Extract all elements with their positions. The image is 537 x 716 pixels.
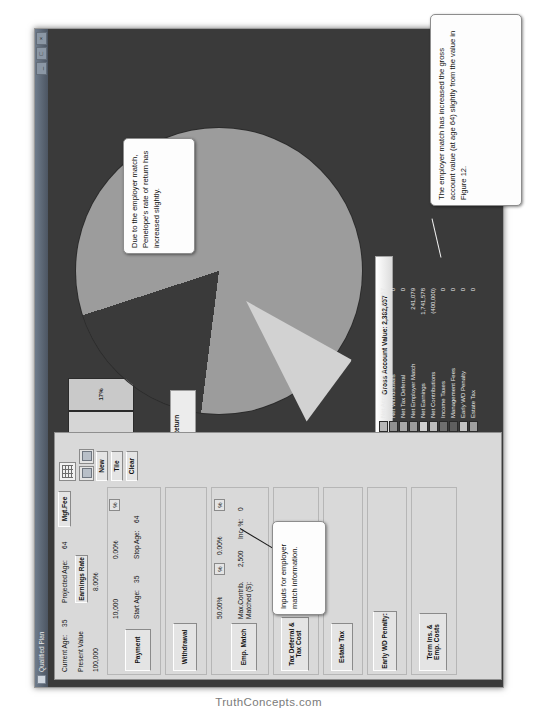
legend-row-value: 2,382,657 [380, 288, 386, 340]
bar-segment-label: 17% [98, 388, 104, 400]
legend-row-label: Net Tax Deferral [400, 340, 406, 418]
gross-account-value-callout-text: The employer match has increased the gro… [437, 20, 469, 200]
legend-swatch-icon [389, 421, 398, 432]
legend-row-label: Net Withdrawals [390, 340, 396, 418]
payment-rate[interactable]: 0.00% [112, 540, 119, 559]
legend-row-value: (400,000) [430, 288, 436, 340]
legend-row-label: Income Taxes [440, 340, 446, 418]
current-age-value[interactable]: 35 [61, 620, 68, 627]
window-title: Qualified Plan [38, 632, 45, 672]
inc-percent-value[interactable]: 0 [237, 507, 244, 511]
legend-row[interactable]: Net Tax Deferral 0 [398, 246, 408, 432]
stop-age-value[interactable]: 64 [133, 516, 140, 523]
legend-swatch-icon [459, 421, 468, 432]
copy-icon[interactable] [79, 449, 94, 464]
footer-watermark-text: TruthConcepts.com [215, 696, 322, 708]
stop-age-label: Stop Age: [133, 530, 140, 559]
emp-match-inc-percent-toggle[interactable]: % [214, 499, 225, 511]
footer-watermark: TruthConcepts.com [0, 692, 537, 710]
projected-age-value[interactable]: 64 [61, 542, 68, 549]
tile-button[interactable]: Tile [111, 451, 123, 481]
withdrawal-button[interactable]: Withdrawal [173, 623, 197, 671]
max-contrib-matched-value[interactable]: 2,500 [237, 550, 244, 567]
employer-match-inputs-callout: Inputs for employer match information. [272, 521, 326, 615]
legend-swatch-icon [419, 421, 428, 432]
legend-row[interactable]: Net Employer Match 241,079 [408, 246, 418, 432]
employer-match-inputs-callout-text: Inputs for employer match information. [279, 527, 301, 609]
estate-tax-button[interactable]: Estate Tax [331, 623, 353, 671]
emp-match-button[interactable]: Emp. Match [231, 623, 257, 671]
max-contrib-matched-label: Max.Contrib. Matched ($): [237, 569, 253, 619]
legend-row-label: Early WD Penalty [460, 340, 466, 418]
legend-row[interactable]: Income Taxes 0 [438, 246, 448, 432]
present-value-amount[interactable]: 100,000 [92, 648, 99, 672]
spreadsheet-grid-icon[interactable] [59, 462, 76, 481]
legend-swatch-icon [379, 421, 388, 432]
legend-row-label: Management Fees [450, 340, 456, 418]
legend-row-value: 0 [390, 288, 396, 340]
term-ins-button[interactable]: Term Ins. & Emp. Costs [419, 613, 447, 671]
legend-row-label: Net Employer Match [410, 340, 416, 418]
close-icon[interactable]: × [36, 32, 47, 45]
legend-row[interactable]: Early WD Penalty 0 [458, 246, 468, 432]
emp-match-inc-rate[interactable]: 0.00% [216, 536, 223, 555]
legend-row-label: Net Earnings [420, 340, 426, 418]
legend-row-value: 0 [470, 288, 476, 340]
legend-row-label: Net Account Value [380, 340, 386, 418]
legend-row[interactable]: Estate Tax 0 [468, 246, 478, 432]
present-value-label: Present Value [77, 631, 84, 672]
legend-swatch-icon [469, 421, 478, 432]
legend-swatch-icon [409, 421, 418, 432]
legend-row[interactable]: Management Fees 0 [448, 246, 458, 432]
legend-row-value: 0 [440, 288, 446, 340]
printer-icon[interactable] [79, 466, 94, 481]
gross-account-value-callout: The employer match has increased the gro… [430, 14, 522, 206]
earnings-rate-button[interactable]: Earnings Rate [75, 555, 88, 603]
legend-row-label: Net Contributions [430, 340, 436, 418]
payment-button[interactable]: Payment [125, 629, 151, 671]
legend-row-value: 0 [450, 288, 456, 340]
emp-match-value[interactable]: 50.00% [216, 597, 223, 619]
legend-swatch-icon [399, 421, 408, 432]
start-age-label: Start Age: [133, 590, 140, 619]
projected-age-label: Projected Age: [61, 560, 68, 603]
minimize-icon[interactable]: _ [36, 62, 47, 75]
clear-button[interactable]: Clear [126, 451, 138, 481]
legend-row[interactable]: Net Earnings 1,741,578 [418, 246, 428, 432]
legend-row[interactable]: Net Withdrawals 0 [388, 246, 398, 432]
payment-percent-toggle[interactable]: % [109, 499, 120, 511]
start-age-value[interactable]: 35 [133, 576, 140, 583]
window-controls[interactable]: _ □ × [36, 32, 47, 75]
window-titlebar: Qualified Plan _ □ × [35, 29, 48, 687]
early-wd-penalty-button[interactable]: Early WD Penalty: [373, 611, 397, 671]
app-icon [37, 675, 46, 684]
legend-row-value: 0 [400, 288, 406, 340]
bar-segment[interactable]: 17% [68, 378, 134, 411]
maximize-icon[interactable]: □ [36, 47, 47, 60]
legend-swatch-icon [449, 421, 458, 432]
mgt-fee-button[interactable]: Mgt.Fee [58, 491, 71, 527]
legend-swatch-icon [429, 421, 438, 432]
legend-row-value: 1,741,578 [420, 288, 426, 340]
rate-of-return-callout: Due to the employer match, Penelope's ra… [123, 138, 195, 254]
payment-value[interactable]: 10,000 [112, 599, 119, 619]
rate-of-return-callout-text: Due to the employer match, Penelope's ra… [130, 144, 162, 248]
legend-row[interactable]: Net Contributions (400,000) [428, 246, 438, 432]
new-button[interactable]: New [96, 451, 108, 481]
screenshot-page: Qualified Plan _ □ × Sources of Net Spen… [0, 0, 537, 716]
legend-row-value: 241,079 [410, 288, 416, 340]
tax-deferral-button[interactable]: Tax Deferral & Tax Cost [281, 617, 309, 671]
current-age-label: Current Age: [61, 635, 68, 672]
legend-row-label: Estate Tax [470, 340, 476, 418]
legend-swatch-icon [439, 421, 448, 432]
legend-row-value: 0 [460, 288, 466, 340]
legend-row[interactable]: Net Account Value 2,382,657 [378, 246, 388, 432]
emp-match-percent-toggle[interactable]: % [214, 563, 225, 575]
earnings-rate-value[interactable]: 8.00% [92, 572, 99, 591]
results-legend-table: Net Account Value 2,382,657 Net Withdraw… [378, 246, 500, 432]
